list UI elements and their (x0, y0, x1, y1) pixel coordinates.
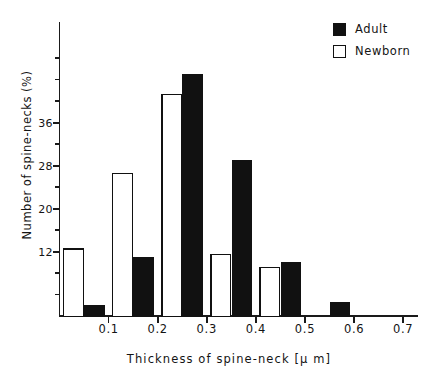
x-tick-label: 0.7 (393, 322, 413, 336)
legend-item-newborn: Newborn (333, 44, 410, 59)
bar-group (64, 74, 350, 316)
y-tick-label: 20 (38, 202, 53, 215)
bar-adult-0.0-0.1 (85, 305, 105, 316)
legend-label-newborn: Newborn (355, 46, 410, 58)
bar-newborn-0.1-0.2 (113, 174, 133, 316)
x-tick-label: 0.4 (246, 322, 266, 336)
chart-legend: Adult Newborn (333, 22, 410, 59)
bar-adult-0.3-0.4 (232, 160, 252, 316)
y-tick-label: 12 (38, 245, 53, 258)
bar-newborn-0.0-0.1 (64, 249, 84, 316)
legend-item-adult: Adult (333, 22, 410, 37)
bar-adult-0.2-0.3 (183, 74, 203, 316)
bar-adult-0.5-0.6 (330, 303, 350, 316)
bar-adult-0.4-0.5 (281, 262, 301, 316)
x-tick-label: 0.6 (344, 322, 364, 336)
x-tick-label: 0.1 (98, 322, 118, 336)
x-tick-label: 0.5 (295, 322, 315, 336)
filled-square-icon (333, 23, 346, 36)
y-tick-marks (53, 58, 60, 295)
bar-adult-0.1-0.2 (134, 257, 154, 316)
open-square-icon (333, 45, 346, 58)
histogram-figure: 12202836 Number of spine-necks (%) Thick… (0, 0, 428, 380)
x-tick-label: 0.2 (147, 322, 167, 336)
y-axis-title: Number of spine-necks (%) (20, 10, 34, 300)
bar-newborn-0.3-0.4 (211, 254, 231, 316)
bar-newborn-0.2-0.3 (162, 94, 182, 316)
legend-label-adult: Adult (355, 24, 388, 36)
y-tick-label: 28 (38, 159, 53, 172)
y-tick-label: 36 (38, 116, 53, 129)
x-tick-label: 0.3 (197, 322, 217, 336)
x-axis-title: Thickness of spine-neck [μ m] (59, 352, 399, 366)
bar-newborn-0.4-0.5 (260, 268, 280, 316)
